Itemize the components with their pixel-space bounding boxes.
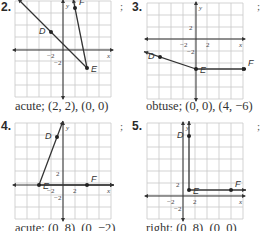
tick-label-x-pos: 2 xyxy=(193,198,197,206)
y-axis-arrow-up xyxy=(61,0,65,3)
point-label-E: E xyxy=(200,65,207,75)
y-axis-label: y xyxy=(65,124,70,132)
point-label-E: E xyxy=(91,64,98,74)
y-axis-arrow-down xyxy=(194,98,198,102)
y-axis-arrow-down xyxy=(181,218,185,222)
point-F xyxy=(229,188,233,192)
point-D xyxy=(187,134,191,138)
x-axis-arrow-right xyxy=(242,37,246,41)
ray-arrow-EF xyxy=(110,183,114,187)
graph-problem-4: xy−222−2DEF xyxy=(12,121,114,222)
x-axis-arrow-right xyxy=(242,194,246,198)
y-axis-arrow-down xyxy=(61,218,65,222)
x-axis-label: x xyxy=(238,198,243,206)
graphs-canvas: xy−2−2DEF xy−222−2DEF xy−222−2DEF xy−222… xyxy=(0,0,263,231)
graph-problem-2: xy−2−2DEF xyxy=(12,0,114,100)
point-label-D: D xyxy=(148,51,155,61)
point-label-D: D xyxy=(39,26,46,36)
point-label-D: D xyxy=(45,131,52,141)
graph-problem-5: xy−222−2DEF xyxy=(144,121,246,222)
point-E xyxy=(37,183,41,187)
point-D xyxy=(49,30,53,34)
point-label-F: F xyxy=(79,0,85,7)
ray-arrow-EF xyxy=(242,188,246,192)
y-axis-arrow-down xyxy=(61,96,65,100)
point-label-D: D xyxy=(177,130,184,140)
graph-problem-3: xy−222−2DEF xyxy=(144,1,254,102)
x-axis-label: x xyxy=(106,187,111,195)
point-D xyxy=(55,135,59,139)
tick-label-y-neg: −2 xyxy=(54,194,62,202)
point-F xyxy=(73,6,77,10)
x-axis-arrow-left xyxy=(144,194,148,198)
point-label-E: E xyxy=(43,181,50,191)
tick-label-y-pos: 2 xyxy=(56,170,60,178)
tick-label-y-pos: 2 xyxy=(189,24,193,32)
x-axis-label: x xyxy=(106,52,111,60)
x-axis-label: x xyxy=(238,41,243,49)
x-axis-arrow-left xyxy=(12,183,16,187)
point-label-F: F xyxy=(235,179,241,189)
x-axis-arrow-right xyxy=(110,48,114,52)
point-E xyxy=(187,188,191,192)
y-axis-label: y xyxy=(198,4,203,12)
tick-label-x-pos: 2 xyxy=(206,41,210,49)
point-label-F: F xyxy=(248,58,254,68)
point-F xyxy=(242,67,246,71)
tick-label-y-neg: −2 xyxy=(174,205,182,213)
tick-label-y-pos: 2 xyxy=(176,181,180,189)
point-label-F: F xyxy=(91,174,97,184)
point-label-E: E xyxy=(193,186,200,196)
y-axis-label: y xyxy=(65,2,70,10)
point-E xyxy=(194,67,198,71)
x-axis-arrow-left xyxy=(12,48,16,52)
tick-label-y-neg: −2 xyxy=(187,48,195,56)
point-E xyxy=(85,66,89,70)
x-axis-arrow-left xyxy=(144,37,148,41)
point-F xyxy=(85,183,89,187)
grid xyxy=(147,3,243,99)
tick-label-x-pos: 2 xyxy=(73,187,77,195)
tick-label-y: −2 xyxy=(54,59,62,67)
point-D xyxy=(158,55,162,59)
